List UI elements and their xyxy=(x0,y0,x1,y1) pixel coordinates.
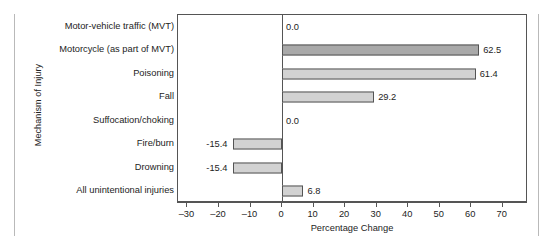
x-axis-tick-label: 0 xyxy=(278,209,283,220)
bar-value-label: 0.0 xyxy=(286,115,299,126)
x-axis: –30–20–10010203040506070 xyxy=(177,202,527,203)
x-axis-tick xyxy=(313,202,314,207)
plot-area: 0.062.561.429.20.0-15.4-15.46.8 xyxy=(177,14,527,202)
category-label: Poisoning xyxy=(133,67,174,78)
x-axis-tick-label: 30 xyxy=(370,209,380,220)
x-axis-tick-label: 50 xyxy=(434,209,444,220)
bar-value-label: 29.2 xyxy=(378,92,396,103)
category-label: Motorcycle (as part of MVT) xyxy=(59,44,174,55)
bar xyxy=(282,186,303,197)
x-axis-tick-label: –30 xyxy=(179,209,195,220)
category-axis-labels: Motor-vehicle traffic (MVT)Motorcycle (a… xyxy=(36,14,174,202)
bar xyxy=(282,92,374,103)
x-axis-tick xyxy=(502,202,503,207)
category-label: Motor-vehicle traffic (MVT) xyxy=(65,20,174,31)
category-label: Fall xyxy=(159,91,174,102)
x-axis-title: Percentage Change xyxy=(177,223,527,233)
x-axis-tick xyxy=(218,202,219,207)
x-axis-line xyxy=(177,202,527,203)
figure-rule-left xyxy=(14,14,15,236)
bar xyxy=(282,45,479,56)
category-label: Fire/burn xyxy=(137,138,174,149)
category-label: All unintentional injuries xyxy=(76,185,174,196)
x-axis-tick-label: 60 xyxy=(465,209,475,220)
x-axis-tick xyxy=(470,202,471,207)
category-label: Drowning xyxy=(135,161,174,172)
bar xyxy=(282,68,476,79)
bar-value-label: 61.4 xyxy=(480,68,498,79)
bar-value-label: 0.0 xyxy=(286,21,299,32)
x-axis-tick xyxy=(439,202,440,207)
bar-value-label: 62.5 xyxy=(483,45,501,56)
x-axis-tick xyxy=(186,202,187,207)
x-axis-tick xyxy=(344,202,345,207)
bar xyxy=(233,139,282,150)
figure-rule-right xyxy=(538,14,539,236)
bar-value-label: 6.8 xyxy=(307,186,320,197)
bar-value-label: -15.4 xyxy=(206,139,227,150)
category-label: Suffocation/choking xyxy=(93,114,174,125)
x-axis-tick-label: 40 xyxy=(402,209,412,220)
x-axis-tick-label: 10 xyxy=(307,209,317,220)
bar-value-label: -15.4 xyxy=(206,162,227,173)
x-axis-tick xyxy=(407,202,408,207)
x-axis-tick xyxy=(250,202,251,207)
x-axis-tick xyxy=(376,202,377,207)
x-axis-tick-label: –20 xyxy=(210,209,226,220)
zero-reference-line xyxy=(282,15,283,201)
x-axis-tick xyxy=(281,202,282,207)
bar xyxy=(233,162,282,173)
x-axis-tick-label: –10 xyxy=(242,209,258,220)
x-axis-tick-label: 20 xyxy=(339,209,349,220)
x-axis-tick-label: 70 xyxy=(497,209,507,220)
